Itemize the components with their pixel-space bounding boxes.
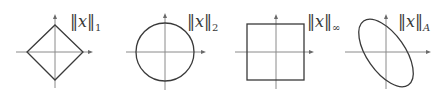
- variable-x: x: [195, 12, 204, 31]
- variable-x: x: [406, 12, 415, 31]
- norm-subscript: 2: [212, 22, 218, 33]
- norm-subscript: 1: [95, 22, 101, 33]
- panel-linf-norm: [235, 14, 314, 89]
- norm-bar-close: ‖: [87, 12, 95, 31]
- label-l1-norm: ‖x‖1: [70, 14, 101, 33]
- x-axis-arrow-icon: [88, 50, 93, 54]
- y-axis-arrow-icon: [384, 14, 388, 19]
- label-a-norm: ‖x‖A: [398, 14, 430, 33]
- x-axis-arrow-icon: [309, 50, 314, 54]
- norm-subscript: ∞: [332, 22, 340, 33]
- variable-x: x: [78, 12, 87, 31]
- norm-bar-open: ‖: [187, 12, 195, 31]
- y-axis-arrow-icon: [274, 14, 278, 19]
- x-axis-arrow-icon: [426, 50, 431, 54]
- norm-bar-close: ‖: [324, 12, 332, 31]
- norm-bar-close: ‖: [204, 12, 212, 31]
- y-axis-arrow-icon: [53, 14, 57, 19]
- label-linf-norm: ‖x‖∞: [307, 14, 340, 33]
- variable-x: x: [315, 12, 324, 31]
- norm-bar-open: ‖: [70, 12, 78, 31]
- y-axis-arrow-icon: [163, 13, 167, 18]
- norm-bar-close: ‖: [415, 12, 423, 31]
- norm-bar-open: ‖: [307, 12, 315, 31]
- x-axis-arrow-icon: [201, 50, 206, 54]
- norm-subscript: A: [423, 22, 430, 33]
- norm-bar-open: ‖: [398, 12, 406, 31]
- label-l2-norm: ‖x‖2: [187, 14, 218, 33]
